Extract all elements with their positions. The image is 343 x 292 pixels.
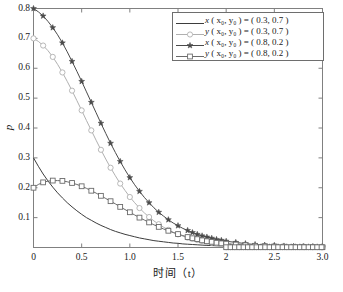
- legend-symbol-star-icon: [175, 37, 205, 48]
- y-tick-label: 0.3: [2, 153, 30, 163]
- series-3: [31, 178, 325, 249]
- data-marker-square: [89, 188, 94, 193]
- data-marker-square: [188, 54, 193, 59]
- x-tick-label: 1.5: [163, 253, 193, 263]
- y-tick-label: 0.7: [2, 33, 30, 43]
- data-marker-star: [69, 58, 75, 64]
- data-marker-square: [200, 238, 205, 243]
- data-marker-star: [79, 78, 85, 84]
- legend-item-3: y ( x₀, y₀ ) = ( 0.8, 0.2 ): [175, 48, 320, 59]
- data-marker-square: [176, 232, 181, 237]
- data-marker-square: [147, 220, 152, 225]
- legend-symbol-circle-icon: [175, 26, 205, 37]
- data-marker-square: [60, 178, 65, 183]
- data-marker-square: [205, 239, 210, 244]
- data-marker-circle: [147, 214, 152, 219]
- legend-label-0: x ( x₀, y₀ ) = ( 0.3, 0.7 ): [205, 16, 289, 25]
- data-marker-circle: [50, 54, 55, 59]
- data-marker-star: [98, 120, 104, 126]
- x-tick-label: 1.0: [115, 253, 145, 263]
- x-tick-label: 3.0: [308, 253, 338, 263]
- data-marker-square: [214, 240, 219, 245]
- data-marker-circle: [118, 181, 123, 186]
- legend-item-2: x ( x₀, y₀ ) = ( 0.8, 0.2 ): [175, 37, 320, 48]
- x-tick-label: 0: [19, 253, 49, 263]
- y-tick-label: 0.8: [2, 4, 30, 14]
- data-marker-square: [319, 245, 324, 250]
- legend-symbol-none-icon: [175, 15, 205, 26]
- data-marker-circle: [137, 205, 142, 210]
- data-marker-star: [185, 227, 191, 233]
- data-marker-square: [190, 236, 195, 241]
- data-marker-star: [88, 99, 94, 105]
- legend-symbol-square-icon: [175, 48, 205, 59]
- data-marker-square: [99, 193, 104, 198]
- data-marker-circle: [31, 36, 36, 41]
- y-tick-label: 0.1: [2, 213, 30, 223]
- legend-item-1: y ( x₀, y₀ ) = ( 0.3, 0.7 ): [175, 26, 320, 37]
- data-marker-square: [127, 210, 132, 215]
- data-marker-star: [117, 158, 123, 164]
- data-marker-square: [219, 241, 224, 246]
- data-marker-square: [79, 184, 84, 189]
- x-tick-label: 2.5: [259, 253, 289, 263]
- data-marker-square: [41, 180, 46, 185]
- y-tick-label: 0.5: [2, 93, 30, 103]
- data-marker-square: [137, 215, 142, 220]
- y-tick-label: 0.6: [2, 63, 30, 73]
- data-marker-square: [108, 199, 113, 204]
- data-marker-square: [166, 228, 171, 233]
- legend-label-3: y ( x₀, y₀ ) = ( 0.8, 0.2 ): [205, 49, 289, 58]
- x-tick-label: 0.5: [67, 253, 97, 263]
- data-marker-square: [70, 181, 75, 186]
- data-marker-circle: [108, 165, 113, 170]
- legend: x ( x₀, y₀ ) = ( 0.3, 0.7 )y ( x₀, y₀ ) …: [172, 12, 324, 61]
- legend-label-2: x ( x₀, y₀ ) = ( 0.8, 0.2 ): [205, 38, 289, 47]
- data-marker-square: [31, 185, 36, 190]
- data-marker-square: [195, 237, 200, 242]
- data-marker-star: [127, 174, 133, 180]
- data-marker-square: [118, 204, 123, 209]
- x-axis-title: 时间（t）: [33, 264, 323, 280]
- data-marker-star: [108, 140, 114, 146]
- data-marker-circle: [79, 108, 84, 113]
- data-marker-square: [185, 235, 190, 240]
- data-marker-circle: [89, 128, 94, 133]
- data-marker-circle: [60, 70, 65, 75]
- series-line: [34, 38, 323, 247]
- legend-label-1: y ( x₀, y₀ ) = ( 0.3, 0.7 ): [205, 27, 289, 36]
- data-marker-square: [209, 239, 214, 244]
- y-tick-label: 0.2: [2, 183, 30, 193]
- data-marker-circle: [69, 88, 74, 93]
- figure-container: p 时间（t） 0.10.20.30.40.50.60.70.8 00.51.0…: [0, 0, 343, 292]
- y-tick-label: 0.4: [2, 123, 30, 133]
- data-marker-square: [156, 224, 161, 229]
- data-marker-square: [50, 178, 55, 183]
- data-marker-star: [59, 40, 65, 46]
- data-marker-circle: [98, 147, 103, 152]
- x-tick-label: 2: [211, 253, 241, 263]
- legend-item-0: x ( x₀, y₀ ) = ( 0.3, 0.7 ): [175, 15, 320, 26]
- data-marker-circle: [127, 194, 132, 199]
- data-marker-circle: [41, 43, 46, 48]
